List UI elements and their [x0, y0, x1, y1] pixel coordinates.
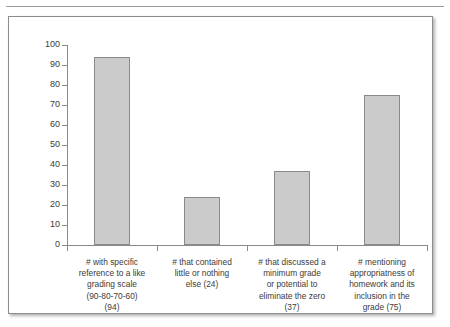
y-axis-tick-label: 60	[9, 120, 60, 129]
x-axis-category-label: # with specificreference to a likegradin…	[67, 257, 157, 313]
x-axis-category-label-line: grade (75)	[339, 302, 425, 313]
y-axis-tick-label-text: 90	[14, 60, 60, 69]
x-axis-tick-mark	[247, 246, 248, 251]
y-axis-tick-label-text: 50	[14, 140, 60, 149]
y-axis-tick-label: 90	[9, 60, 60, 69]
y-axis-tick-label-text: 80	[14, 80, 60, 89]
y-axis-tick-label: 20	[9, 200, 60, 209]
y-axis-tick-label-text: 70	[14, 100, 60, 109]
x-axis-tick-mark	[67, 246, 68, 251]
x-axis-category-label-line: little or nothing	[159, 268, 245, 279]
y-axis-tick-mark	[62, 205, 67, 206]
x-axis-tick-mark	[427, 246, 428, 251]
y-axis-tick-mark	[62, 165, 67, 166]
x-axis-category-label-line: (90-80-70-60)	[69, 291, 155, 302]
y-axis-tick-label: 30	[9, 180, 60, 189]
bar	[94, 57, 130, 245]
y-axis-tick-label-text: 10	[14, 220, 60, 229]
top-divider-rule	[6, 6, 444, 7]
x-axis-category-label-line: reference to a like	[69, 268, 155, 279]
y-axis-tick-label: 80	[9, 80, 60, 89]
y-axis-tick-label: 70	[9, 100, 60, 109]
x-axis-category-label-line: # that contained	[159, 257, 245, 268]
y-axis-tick-label-text: 30	[14, 180, 60, 189]
x-axis-category-label-line: or potential to	[249, 279, 335, 290]
bar	[274, 171, 310, 245]
x-axis-category-label-line: grading scale	[69, 279, 155, 290]
y-axis-line	[67, 45, 68, 245]
y-axis-tick-label-text: 40	[14, 160, 60, 169]
y-axis-tick-label: 40	[9, 160, 60, 169]
bar	[364, 95, 400, 245]
y-axis-tick-mark	[62, 85, 67, 86]
x-axis-category-label-line: # that discussed a	[249, 257, 335, 268]
y-axis-tick-label-text: 20	[14, 200, 60, 209]
y-axis-tick-label: 100	[9, 40, 60, 49]
x-axis-category-label: # that discussed aminimum gradeor potent…	[247, 257, 337, 313]
y-axis-tick-mark	[62, 185, 67, 186]
x-axis-category-label-line: appropriatness of	[339, 268, 425, 279]
x-axis-tick-mark	[337, 246, 338, 251]
x-axis-category-label-line: homework and its	[339, 279, 425, 290]
y-axis-tick-label: 0	[9, 240, 60, 249]
x-axis-category-label-line: (94)	[69, 302, 155, 313]
y-axis-tick-label-text: 0	[14, 240, 60, 249]
y-axis-tick-mark	[62, 145, 67, 146]
y-axis-tick-mark	[62, 105, 67, 106]
x-axis-category-label-line: inclusion in the	[339, 291, 425, 302]
x-axis-category-label-line: # mentioning	[339, 257, 425, 268]
y-axis-tick-label-text: 100	[14, 40, 60, 49]
y-axis-tick-label: 10	[9, 220, 60, 229]
y-axis-tick-mark	[62, 225, 67, 226]
x-axis-category-label: # mentioningappropriatness ofhomework an…	[337, 257, 427, 313]
x-axis-category-label-line: # with specific	[69, 257, 155, 268]
y-axis-tick-label: 50	[9, 140, 60, 149]
y-axis-tick-label-text: 60	[14, 120, 60, 129]
x-axis-category-label-line: eliminate the zero	[249, 291, 335, 302]
x-axis-tick-mark	[157, 246, 158, 251]
x-axis-category-label-line: (37)	[249, 302, 335, 313]
bar-chart-plot: 0102030405060708090100 # with specificre…	[9, 17, 432, 313]
x-axis-category-label-line: else (24)	[159, 279, 245, 290]
x-axis-category-label-line: minimum grade	[249, 268, 335, 279]
y-axis-tick-mark	[62, 65, 67, 66]
y-axis-tick-mark	[62, 125, 67, 126]
y-axis-tick-mark	[62, 45, 67, 46]
x-axis-category-label: # that containedlittle or nothingelse (2…	[157, 257, 247, 291]
bar	[184, 197, 220, 245]
chart-figure-frame: 0102030405060708090100 # with specificre…	[8, 16, 433, 314]
